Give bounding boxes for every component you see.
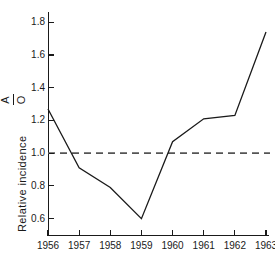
x-axis-tick-mark bbox=[141, 230, 142, 236]
x-axis-tick-mark bbox=[47, 230, 48, 236]
x-axis-tick-mark bbox=[265, 230, 266, 236]
y-axis-tick-mark bbox=[49, 54, 54, 55]
x-axis-tick-mark bbox=[110, 230, 111, 236]
x-axis-tick-mark bbox=[234, 230, 235, 236]
y-axis-tick-mark bbox=[49, 87, 54, 88]
data-series-line bbox=[48, 32, 266, 219]
x-axis-tick-mark bbox=[203, 230, 204, 236]
chart-plot-svg bbox=[0, 0, 275, 263]
line-chart: Relative incidence A O 1.81.61.41.21.00.… bbox=[0, 0, 275, 263]
y-axis-tick-mark bbox=[49, 120, 54, 121]
x-axis-tick-mark bbox=[79, 230, 80, 236]
y-axis-tick-mark bbox=[49, 153, 54, 154]
y-axis-tick-mark bbox=[49, 22, 54, 23]
y-axis-tick-mark bbox=[49, 185, 54, 186]
x-axis-tick-mark bbox=[172, 230, 173, 236]
y-axis-tick-mark bbox=[49, 218, 54, 219]
